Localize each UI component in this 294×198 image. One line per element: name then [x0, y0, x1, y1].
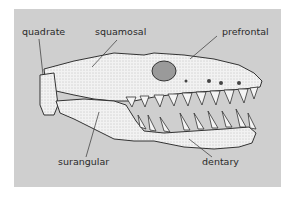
label-surangular: surangular	[58, 157, 109, 167]
label-dentary: dentary	[202, 157, 239, 167]
label-squamosal: squamosal	[95, 27, 146, 37]
label-quadrate: quadrate	[22, 27, 65, 37]
orbit	[152, 61, 176, 81]
label-prefrontal: prefrontal	[222, 27, 269, 37]
